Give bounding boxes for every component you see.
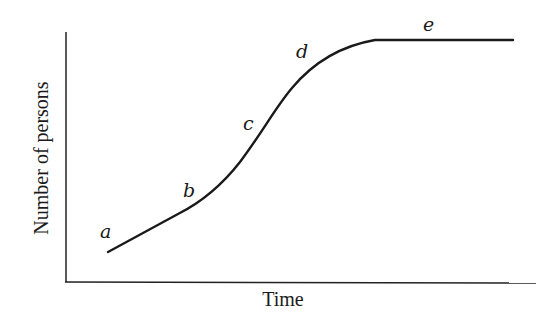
label-b: b [183,179,195,201]
x-axis-label: Time [262,288,304,310]
label-c: c [243,112,254,134]
y-axis-label: Number of persons [30,81,53,235]
label-e: e [423,13,434,35]
chart: a b c d e Time Number of persons [0,0,556,322]
x-axis [65,282,536,283]
label-a: a [100,220,111,242]
growth-curve [108,40,513,252]
label-d: d [296,40,308,62]
